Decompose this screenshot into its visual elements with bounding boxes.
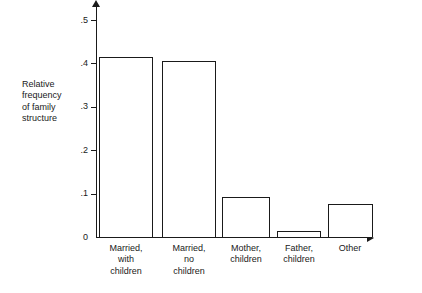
x-label-line: children	[96, 266, 156, 277]
y-tick-label-5: .5	[64, 16, 88, 25]
x-label-mother-children: Mother, children	[216, 243, 276, 266]
x-label-line: children	[216, 254, 276, 265]
x-label-line: no	[159, 254, 219, 265]
y-tick-label-4: .4	[64, 59, 88, 68]
bar-other	[328, 204, 373, 237]
y-tick-5	[91, 20, 97, 21]
bar-married-with-children	[99, 57, 153, 237]
x-label-line: Married,	[96, 243, 156, 254]
x-label-father-children: Father, children	[269, 243, 329, 266]
y-tick-label-0: 0	[64, 233, 88, 242]
bar-mother-children	[222, 197, 270, 237]
x-label-married-with-children: Married, with children	[96, 243, 156, 277]
x-label-line: children	[159, 266, 219, 277]
x-label-line: with	[96, 254, 156, 265]
x-label-line: Mother,	[216, 243, 276, 254]
y-tick-label-2: .2	[64, 146, 88, 155]
y-tick-3	[91, 107, 97, 108]
y-tick-1	[91, 194, 97, 195]
chart-page: .5 .4 .3 .2 .1 0 Married, with children …	[0, 0, 422, 293]
y-tick-4	[91, 63, 97, 64]
x-label-line: Married,	[159, 243, 219, 254]
y-tick-2	[91, 150, 97, 151]
x-axis-line	[96, 237, 368, 238]
bar-chart-plot: .5 .4 .3 .2 .1 0 Married, with children …	[0, 0, 422, 293]
x-label-line: children	[269, 254, 329, 265]
y-axis-arrow-icon	[92, 0, 100, 7]
bar-father-children	[277, 231, 321, 238]
y-axis-title-line: frequency	[22, 90, 86, 101]
y-axis-title: Relative frequency of family structure	[22, 79, 86, 125]
y-axis-title-line: of family	[22, 102, 86, 113]
y-tick-label-1: .1	[64, 189, 88, 198]
x-label-married-no-children: Married, no children	[159, 243, 219, 277]
y-axis-title-line: structure	[22, 113, 86, 124]
y-axis-line	[96, 3, 97, 237]
bar-married-no-children	[162, 61, 216, 237]
y-axis-title-line: Relative	[22, 79, 86, 90]
x-label-line: Other	[322, 243, 378, 254]
x-label-other: Other	[322, 243, 378, 254]
x-label-line: Father,	[269, 243, 329, 254]
